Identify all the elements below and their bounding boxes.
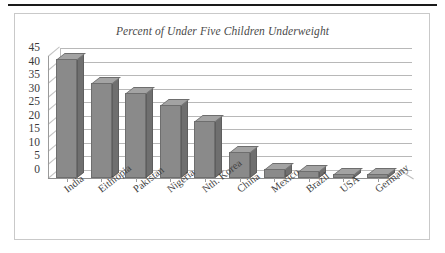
gridline xyxy=(60,62,412,63)
bar-side-face xyxy=(181,99,188,178)
y-tick-label: 5 xyxy=(0,149,40,161)
y-tick-label: 45 xyxy=(0,41,40,53)
gridline xyxy=(60,48,412,49)
y-tick-label: 10 xyxy=(0,136,40,148)
bar-side-face xyxy=(112,78,119,178)
y-tick-label: 25 xyxy=(0,95,40,107)
y-tick-label: 0 xyxy=(0,163,40,175)
bar-side-face xyxy=(77,53,84,178)
top-horizontal-rule xyxy=(8,4,437,6)
bar-side-face xyxy=(146,87,153,178)
y-tick-label: 15 xyxy=(0,122,40,134)
chart-page: Percent of Under Five Children Underweig… xyxy=(0,0,445,253)
gridline xyxy=(60,75,412,76)
depth-tick xyxy=(48,46,60,56)
bar xyxy=(194,121,215,178)
bar xyxy=(91,83,112,178)
bar xyxy=(56,59,77,178)
y-tick-label: 20 xyxy=(0,109,40,121)
y-axis-tick-labels: 454035302520151050 xyxy=(0,40,40,180)
chart-title: Percent of Under Five Children Underweig… xyxy=(0,25,445,37)
bar xyxy=(160,105,181,178)
y-axis-line xyxy=(48,56,49,178)
y-tick-label: 40 xyxy=(0,55,40,67)
y-tick-label: 35 xyxy=(0,68,40,80)
y-tick-label: 30 xyxy=(0,82,40,94)
